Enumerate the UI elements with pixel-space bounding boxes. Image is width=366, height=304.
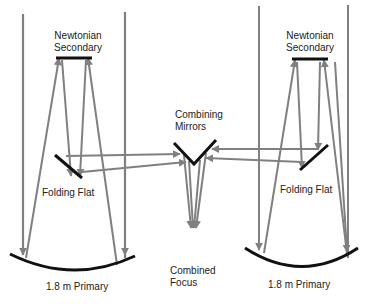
left-telescope: Newtonian Secondary Folding Flat 1.8 m P… <box>10 12 186 292</box>
combining-mirrors: Combining Mirrors Combined Focus <box>170 109 223 288</box>
right-ray-secondary-to-flat-b <box>318 62 320 150</box>
left-ray-flat-to-combiner-a <box>66 154 180 156</box>
combined-focus-label-line1: Combined <box>170 265 216 276</box>
left-secondary-label-line2: Secondary <box>54 42 102 53</box>
left-ray-secondary-to-flat-a <box>62 60 71 176</box>
optical-diagram: Newtonian Secondary Folding Flat 1.8 m P… <box>0 0 366 304</box>
right-ray-flat-outer <box>335 62 347 252</box>
right-ray-flat-to-combiner-b <box>206 158 302 162</box>
right-primary-label: 1.8 m Primary <box>268 279 330 290</box>
left-folding-flat-mirror <box>55 155 82 178</box>
right-ray-secondary-to-flat-a <box>297 62 302 168</box>
combining-mirrors-label-line2: Mirrors <box>175 121 206 132</box>
left-ray-primary-to-secondary-b <box>88 58 117 265</box>
right-secondary-label-line2: Secondary <box>286 42 334 53</box>
left-secondary-label-line1: Newtonian <box>54 30 101 41</box>
combined-focus-label-line2: Focus <box>170 277 197 288</box>
combining-mirrors-label-line1: Combining <box>175 109 223 120</box>
right-secondary-label-line1: Newtonian <box>286 30 333 41</box>
left-folding-flat-label: Folding Flat <box>42 187 94 198</box>
left-ray-flat-to-combiner-b <box>82 162 186 172</box>
left-primary-label: 1.8 m Primary <box>46 281 108 292</box>
combining-mirror-v <box>174 140 216 164</box>
left-ray-secondary-to-flat-b <box>80 60 86 176</box>
right-ray-primary-to-secondary-b <box>324 60 347 254</box>
right-primary-mirror <box>245 248 358 267</box>
right-ray-primary-to-secondary-a <box>264 60 295 253</box>
left-ray-primary-to-secondary-a <box>26 58 59 258</box>
right-telescope: Newtonian Secondary Folding Flat 1.8 m P… <box>206 5 358 290</box>
right-folding-flat-label: Folding Flat <box>280 184 332 195</box>
